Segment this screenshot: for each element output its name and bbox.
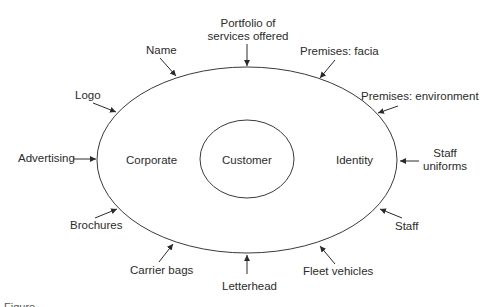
label-staff: Staff xyxy=(395,220,418,233)
arrow-logo xyxy=(93,103,116,112)
label-staff-uniforms-line1: Staff xyxy=(423,147,467,160)
label-brochures: Brochures xyxy=(70,219,122,232)
arrow-fleet-vehicles xyxy=(320,246,335,264)
label-carrier-bags: Carrier bags xyxy=(130,264,193,277)
label-advertising: Advertising xyxy=(18,152,75,165)
label-letterhead: Letterhead xyxy=(222,280,277,293)
arrow-premises-facia xyxy=(320,60,335,78)
label-name: Name xyxy=(146,44,177,57)
label-portfolio: Portfolio of services offered xyxy=(207,17,289,43)
arrow-staff xyxy=(380,209,402,218)
label-staff-uniforms: Staff uniforms xyxy=(423,147,467,173)
label-identity: Identity xyxy=(336,154,373,167)
label-customer: Customer xyxy=(222,154,272,167)
label-logo: Logo xyxy=(75,89,101,102)
figure-caption: Figure xyxy=(4,301,35,307)
label-corporate: Corporate xyxy=(126,154,177,167)
label-portfolio-line2: services offered xyxy=(207,30,289,43)
label-portfolio-line1: Portfolio of xyxy=(207,17,289,30)
arrow-name xyxy=(160,58,176,76)
label-premises-facia: Premises: facia xyxy=(300,45,379,58)
label-fleet-vehicles: Fleet vehicles xyxy=(303,265,373,278)
label-staff-uniforms-line2: uniforms xyxy=(423,160,467,173)
arrow-premises-environment xyxy=(378,106,398,113)
arrow-carrier-bags xyxy=(159,244,173,262)
label-premises-environment: Premises: environment xyxy=(361,90,479,103)
arrow-brochures xyxy=(95,209,117,218)
